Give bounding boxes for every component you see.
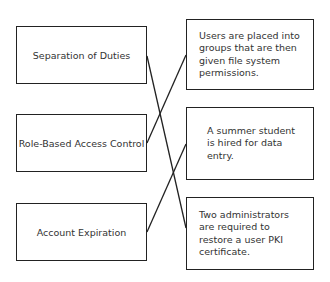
left-box-role-based-access-control: Role-Based Access Control — [16, 114, 147, 172]
right-box-label: Users are placed into groups that are th… — [199, 30, 305, 79]
line-separation-to-two-admins — [147, 56, 186, 228]
right-box-label: Two administrators are required to resto… — [199, 209, 305, 258]
left-box-label: Role-Based Access Control — [19, 138, 145, 149]
left-box-label: Separation of Duties — [33, 50, 130, 61]
line-rbac-to-users-groups — [147, 55, 186, 143]
right-box-users-groups: Users are placed into groups that are th… — [186, 19, 314, 90]
right-box-two-administrators: Two administrators are required to resto… — [186, 197, 314, 270]
right-box-summer-student: A summer student is hired for data entry… — [186, 107, 314, 180]
right-box-label: A summer student is hired for data entry… — [207, 125, 305, 162]
left-box-separation-of-duties: Separation of Duties — [16, 26, 147, 84]
line-expiration-to-summer-student — [147, 144, 186, 232]
left-box-account-expiration: Account Expiration — [16, 203, 147, 261]
left-box-label: Account Expiration — [37, 227, 127, 238]
